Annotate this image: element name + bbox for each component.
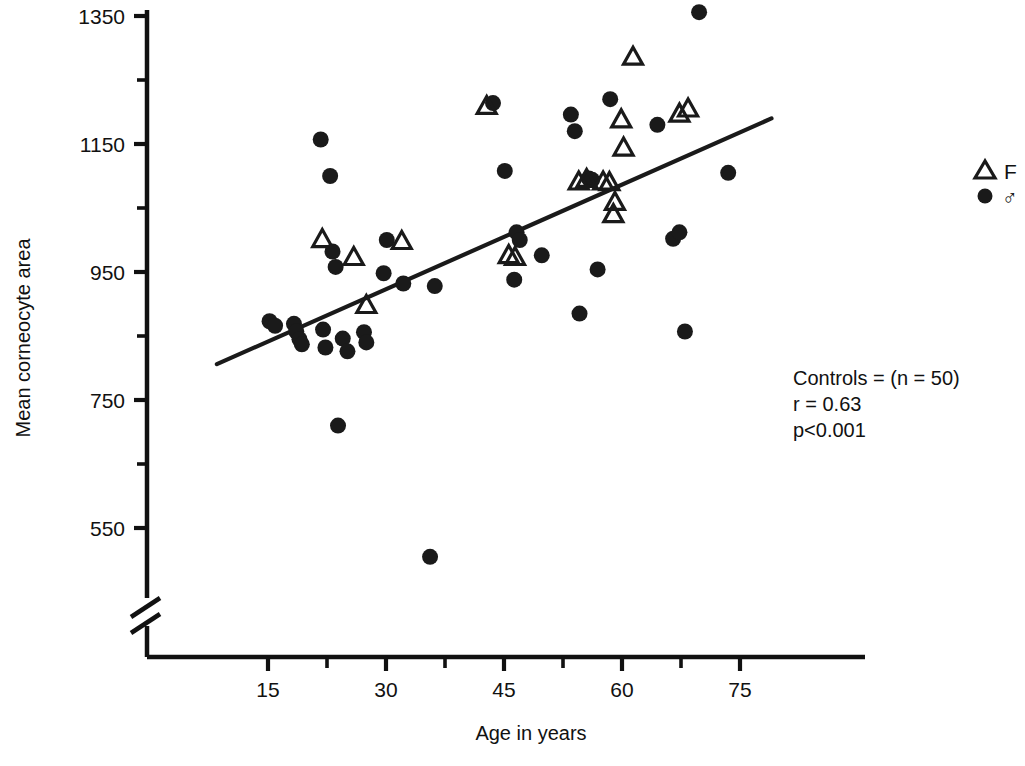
data-point-female [392, 232, 411, 249]
y-tick-label: 750 [90, 389, 125, 412]
data-point-male [358, 334, 374, 350]
data-point-male [534, 247, 550, 263]
data-point-female [344, 248, 363, 265]
data-point-male [649, 117, 665, 133]
data-point-male [677, 324, 693, 340]
data-point-male [691, 4, 707, 20]
data-point-male [720, 165, 736, 181]
axis-break-slash-upper [131, 598, 160, 617]
data-point-male [395, 276, 411, 292]
data-point-male [339, 343, 355, 359]
x-tick-label: 30 [374, 678, 397, 701]
data-point-male [506, 272, 522, 288]
data-point-male [330, 418, 346, 434]
data-point-female [313, 230, 332, 247]
x-tick-label: 60 [610, 678, 633, 701]
data-point-male [572, 306, 588, 322]
annotation-r-value: r = 0.63 [793, 393, 861, 415]
data-point-female [614, 138, 633, 155]
data-point-female [612, 110, 631, 127]
data-point-female [624, 47, 643, 64]
annotation-controls-n: Controls = (n = 50) [793, 367, 960, 389]
legend-open-triangle-icon [975, 161, 995, 178]
y-tick-label: 550 [90, 517, 125, 540]
data-point-male [322, 168, 338, 184]
data-point-male [317, 340, 333, 356]
data-point-male [267, 318, 283, 334]
data-point-male [313, 132, 329, 148]
data-point-male [328, 259, 344, 275]
data-point-male [563, 107, 579, 123]
x-tick-label: 75 [728, 678, 751, 701]
scatter-plot-figure: 55075095011501350 1530456075 Age in year… [0, 0, 1025, 766]
data-point-male [497, 163, 513, 179]
data-point-male [512, 232, 528, 248]
data-point-male [671, 224, 687, 240]
x-axis-tick-labels: 1530456075 [256, 678, 751, 701]
x-tick-label: 15 [256, 678, 279, 701]
data-point-female [357, 296, 376, 313]
data-point-male [376, 265, 392, 281]
y-tick-label: 1150 [80, 133, 125, 156]
annotation-p-value: p<0.001 [793, 419, 866, 441]
x-tick-label: 45 [492, 678, 515, 701]
legend-female-label: F [1004, 160, 1017, 183]
data-point-male [315, 322, 331, 338]
y-axis-tick-labels: 55075095011501350 [78, 5, 125, 540]
legend: F ♂ [975, 160, 1018, 209]
legend-male-label: ♂ [1002, 186, 1018, 209]
data-point-male [567, 123, 583, 139]
data-point-male [590, 261, 606, 277]
plot-canvas: 55075095011501350 1530456075 Age in year… [0, 0, 1025, 766]
legend-filled-circle-icon [978, 189, 993, 204]
data-points-female [313, 47, 698, 312]
data-point-male [427, 278, 443, 294]
data-points-male [262, 4, 737, 565]
data-point-male [602, 91, 618, 107]
y-axis-title: Mean corneocyte area [12, 238, 34, 438]
data-point-male [294, 336, 310, 352]
data-point-male [422, 549, 438, 565]
x-axis-title: Age in years [475, 722, 586, 744]
y-tick-label: 1350 [78, 5, 125, 28]
y-tick-label: 950 [90, 261, 125, 284]
